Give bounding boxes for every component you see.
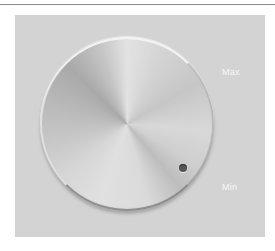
max-label: Max: [222, 67, 240, 77]
knob-panel: Max Min: [15, 15, 265, 237]
min-label: Min: [222, 182, 237, 192]
knob-rim: [40, 37, 214, 211]
knob-indicator-dot-icon: [179, 164, 187, 172]
rotary-knob[interactable]: [40, 37, 214, 211]
top-divider: [0, 4, 275, 5]
